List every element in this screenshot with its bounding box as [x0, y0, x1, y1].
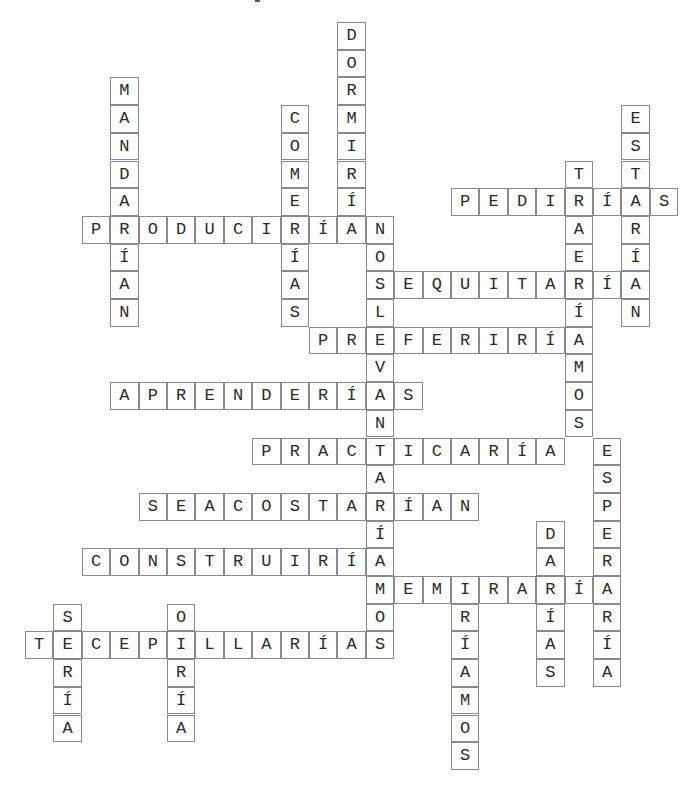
crossword-cell[interactable]: R — [536, 576, 564, 604]
crossword-cell[interactable]: O — [366, 604, 394, 632]
crossword-cell[interactable]: R — [479, 438, 507, 466]
crossword-cell[interactable]: A — [110, 271, 138, 299]
crossword-cell[interactable]: I — [451, 576, 479, 604]
crossword-cell[interactable]: A — [110, 105, 138, 133]
crossword-cell[interactable]: A — [593, 659, 621, 687]
crossword-cell[interactable]: M — [281, 161, 309, 189]
crossword-cell[interactable]: O — [366, 244, 394, 272]
crossword-cell[interactable]: I — [252, 216, 280, 244]
crossword-cell[interactable]: Í — [536, 604, 564, 632]
crossword-cell[interactable]: P — [252, 438, 280, 466]
crossword-cell[interactable]: A — [309, 438, 337, 466]
crossword-cell[interactable]: E — [423, 327, 451, 355]
crossword-cell[interactable]: O — [139, 216, 167, 244]
crossword-cell[interactable]: E — [394, 271, 422, 299]
crossword-cell[interactable]: A — [565, 327, 593, 355]
crossword-cell[interactable]: C — [423, 438, 451, 466]
crossword-cell[interactable]: R — [224, 548, 252, 576]
crossword-cell[interactable]: A — [593, 576, 621, 604]
crossword-cell[interactable]: M — [110, 77, 138, 105]
crossword-cell[interactable]: I — [167, 631, 195, 659]
crossword-cell[interactable]: L — [195, 631, 223, 659]
crossword-cell[interactable]: R — [451, 327, 479, 355]
crossword-cell[interactable]: A — [337, 216, 365, 244]
crossword-cell[interactable]: F — [394, 327, 422, 355]
crossword-cell[interactable]: Í — [451, 631, 479, 659]
crossword-cell[interactable]: R — [366, 493, 394, 521]
crossword-cell[interactable]: C — [82, 631, 110, 659]
crossword-cell[interactable]: P — [309, 327, 337, 355]
crossword-cell[interactable]: T — [621, 161, 649, 189]
crossword-cell[interactable]: Í — [309, 631, 337, 659]
crossword-cell[interactable]: E — [593, 438, 621, 466]
crossword-cell[interactable]: P — [139, 631, 167, 659]
crossword-cell[interactable]: S — [565, 410, 593, 438]
crossword-cell[interactable]: E — [621, 105, 649, 133]
crossword-cell[interactable]: Í — [281, 244, 309, 272]
crossword-cell[interactable]: M — [423, 576, 451, 604]
crossword-cell[interactable]: A — [366, 465, 394, 493]
crossword-cell[interactable]: P — [593, 493, 621, 521]
crossword-cell[interactable]: A — [252, 631, 280, 659]
crossword-cell[interactable]: I — [536, 188, 564, 216]
crossword-cell[interactable]: R — [167, 382, 195, 410]
crossword-cell[interactable]: M — [565, 354, 593, 382]
crossword-cell[interactable]: R — [309, 382, 337, 410]
crossword-cell[interactable]: R — [565, 188, 593, 216]
crossword-cell[interactable]: S — [53, 604, 81, 632]
crossword-cell[interactable]: E — [281, 382, 309, 410]
crossword-cell[interactable]: E — [565, 244, 593, 272]
crossword-cell[interactable]: N — [224, 382, 252, 410]
crossword-cell[interactable]: R — [593, 604, 621, 632]
crossword-cell[interactable]: E — [110, 631, 138, 659]
crossword-cell[interactable]: A — [536, 271, 564, 299]
crossword-cell[interactable]: A — [536, 438, 564, 466]
crossword-cell[interactable]: O — [281, 133, 309, 161]
crossword-cell[interactable]: E — [593, 521, 621, 549]
crossword-cell[interactable]: Í — [337, 548, 365, 576]
crossword-cell[interactable]: S — [366, 271, 394, 299]
crossword-cell[interactable]: E — [281, 188, 309, 216]
crossword-cell[interactable]: Í — [394, 493, 422, 521]
crossword-cell[interactable]: R — [110, 216, 138, 244]
crossword-cell[interactable]: Í — [593, 271, 621, 299]
crossword-cell[interactable]: C — [337, 438, 365, 466]
crossword-cell[interactable]: T — [508, 271, 536, 299]
crossword-cell[interactable]: S — [167, 548, 195, 576]
crossword-cell[interactable]: S — [139, 493, 167, 521]
crossword-cell[interactable]: R — [621, 216, 649, 244]
crossword-cell[interactable]: I — [281, 548, 309, 576]
crossword-cell[interactable]: D — [110, 161, 138, 189]
crossword-cell[interactable]: E — [394, 576, 422, 604]
crossword-cell[interactable]: T — [366, 438, 394, 466]
crossword-cell[interactable]: M — [451, 687, 479, 715]
crossword-cell[interactable]: A — [110, 382, 138, 410]
crossword-cell[interactable]: R — [479, 576, 507, 604]
crossword-cell[interactable]: A — [366, 548, 394, 576]
crossword-cell[interactable]: N — [451, 493, 479, 521]
crossword-cell[interactable]: Í — [309, 216, 337, 244]
crossword-cell[interactable]: A — [281, 271, 309, 299]
crossword-cell[interactable]: I — [479, 271, 507, 299]
crossword-cell[interactable]: S — [451, 742, 479, 770]
crossword-cell[interactable]: R — [337, 77, 365, 105]
crossword-cell[interactable]: A — [508, 576, 536, 604]
crossword-cell[interactable]: S — [650, 188, 678, 216]
crossword-cell[interactable]: E — [53, 631, 81, 659]
crossword-cell[interactable]: S — [536, 659, 564, 687]
crossword-cell[interactable]: C — [281, 105, 309, 133]
crossword-cell[interactable]: A — [53, 715, 81, 743]
crossword-cell[interactable]: O — [110, 548, 138, 576]
crossword-cell[interactable]: T — [565, 161, 593, 189]
crossword-cell[interactable]: A — [451, 659, 479, 687]
crossword-cell[interactable]: S — [281, 299, 309, 327]
crossword-cell[interactable]: A — [621, 271, 649, 299]
crossword-cell[interactable]: E — [195, 382, 223, 410]
crossword-cell[interactable]: Í — [53, 687, 81, 715]
crossword-cell[interactable]: A — [423, 493, 451, 521]
crossword-cell[interactable]: S — [593, 465, 621, 493]
crossword-cell[interactable]: O — [167, 604, 195, 632]
crossword-cell[interactable]: L — [366, 299, 394, 327]
crossword-cell[interactable]: C — [82, 548, 110, 576]
crossword-cell[interactable]: T — [195, 548, 223, 576]
